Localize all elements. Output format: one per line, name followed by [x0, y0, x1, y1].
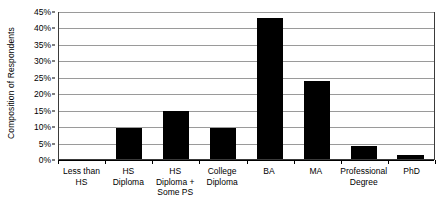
y-axis-tick-label: 35%: [34, 41, 51, 50]
x-axis-category-label: Professional Degree: [339, 166, 388, 205]
x-axis-category-label: PhD: [388, 166, 435, 205]
y-axis-tick-mark: [52, 77, 55, 78]
y-axis-tick-label: 25%: [34, 74, 51, 83]
x-axis-category-labels: Less than HSHS DiplomaHS Diploma + Some …: [58, 166, 435, 205]
bar-slot: [59, 13, 106, 159]
x-axis-tick-mark: [199, 160, 200, 164]
y-axis-tick-label: 0%: [39, 156, 51, 165]
y-axis-tick-label: 20%: [34, 90, 51, 99]
x-axis-category-label: HS Diploma: [105, 166, 152, 205]
y-axis-tick-mark: [52, 28, 55, 29]
x-axis-tick-mark: [105, 160, 106, 164]
x-axis-tick-marks: [58, 160, 435, 165]
y-axis-tick-mark: [52, 44, 55, 45]
y-axis-tick-labels: 45%40%35%30%25%20%15%10%5%0%: [22, 12, 55, 160]
bar-slot: [153, 13, 200, 159]
bar: [116, 128, 142, 159]
bar-slot: [247, 13, 294, 159]
x-axis-category-label: College Diploma: [199, 166, 246, 205]
x-axis-tick-mark: [294, 160, 295, 164]
x-axis-category-label: BA: [246, 166, 293, 205]
bar-slot: [200, 13, 247, 159]
bar-slot: [106, 13, 153, 159]
x-axis-tick-mark: [58, 160, 59, 164]
y-axis-title-text: Composition of Respondents: [6, 27, 16, 139]
x-axis-tick-mark: [152, 160, 153, 164]
bar-slot: [340, 13, 387, 159]
y-axis-tick-label: 45%: [34, 8, 51, 17]
bar: [257, 18, 283, 159]
y-axis-tick-mark: [52, 110, 55, 111]
bar: [351, 146, 377, 159]
x-axis-tick-mark: [247, 160, 248, 164]
y-axis-tick-mark: [52, 127, 55, 128]
plot-area: [58, 12, 435, 160]
x-axis-tick-mark: [388, 160, 389, 164]
y-axis-tick-label: 30%: [34, 57, 51, 66]
bar-slot: [293, 13, 340, 159]
bars-container: [59, 13, 434, 159]
bar: [304, 81, 330, 159]
x-axis-category-label: Less than HS: [58, 166, 105, 205]
y-axis-title: Composition of Respondents: [0, 0, 22, 165]
y-axis-tick-label: 40%: [34, 24, 51, 33]
x-axis-tick-mark: [435, 160, 436, 164]
bar: [163, 111, 189, 159]
bar: [210, 128, 236, 159]
y-axis-tick-mark: [52, 61, 55, 62]
y-axis-tick-mark: [52, 143, 55, 144]
x-axis-tick-mark: [341, 160, 342, 164]
y-axis-tick-label: 10%: [34, 123, 51, 132]
x-axis-category-label: HS Diploma + Some PS: [152, 166, 199, 205]
bar-slot: [387, 13, 434, 159]
bar-chart: Composition of Respondents 45%40%35%30%2…: [0, 0, 445, 205]
y-axis-tick-mark: [52, 12, 55, 13]
y-axis-tick-label: 15%: [34, 106, 51, 115]
x-axis-category-label: MA: [292, 166, 339, 205]
y-axis-tick-mark: [52, 94, 55, 95]
y-axis-tick-mark: [52, 160, 55, 161]
y-axis-tick-label: 5%: [39, 139, 51, 148]
bar: [397, 155, 423, 159]
